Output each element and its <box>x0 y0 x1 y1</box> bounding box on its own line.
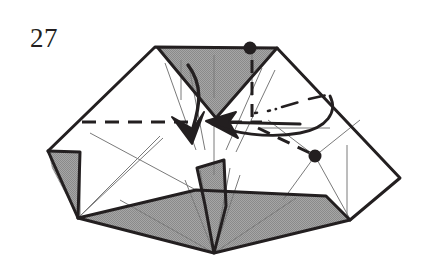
reference-dot-right <box>309 150 322 163</box>
diagram-page: 27 <box>0 0 430 275</box>
reference-dot-top <box>244 42 257 55</box>
origami-figure <box>0 0 430 275</box>
